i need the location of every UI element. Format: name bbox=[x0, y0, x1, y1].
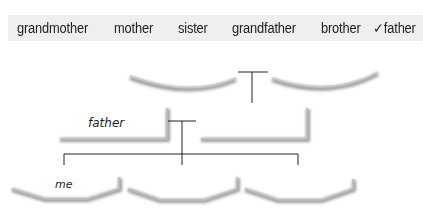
child-3-slot[interactable] bbox=[245, 179, 354, 201]
grandparents-connector bbox=[238, 72, 268, 103]
parent-right-slot[interactable] bbox=[201, 108, 308, 140]
parents-connector bbox=[168, 121, 196, 165]
parent-left-label: father bbox=[88, 116, 124, 130]
grandparent-left-slot[interactable] bbox=[130, 76, 236, 90]
grandparent-right-slot[interactable] bbox=[272, 72, 378, 89]
siblings-connector bbox=[64, 154, 298, 165]
child-2-slot[interactable] bbox=[128, 177, 238, 201]
child-1-label: me bbox=[55, 178, 72, 191]
